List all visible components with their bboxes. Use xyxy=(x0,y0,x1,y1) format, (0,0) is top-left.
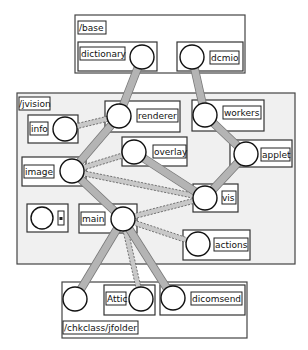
node-circle-actions[interactable] xyxy=(186,232,210,256)
node-label-workers: workers xyxy=(224,108,260,118)
node-label-dcmio: dcmio xyxy=(211,53,239,63)
node-label-applet: applet xyxy=(262,150,291,160)
node-circle-main[interactable] xyxy=(111,207,135,231)
node-circle-renderer[interactable] xyxy=(107,104,131,128)
node-label-main: main xyxy=(82,214,105,224)
node-circle-attic[interactable] xyxy=(129,287,153,311)
node-circle-image[interactable] xyxy=(60,159,84,183)
node-label-image: image xyxy=(25,167,53,177)
node-label-dicomsend: dicomsend xyxy=(192,294,241,304)
node-circle-vis[interactable] xyxy=(193,186,217,210)
node-label-attic: Attic xyxy=(107,294,128,304)
package-label-jvision: /jvision xyxy=(19,99,51,109)
package-label-base: /base xyxy=(79,23,104,33)
node-circle-overlay[interactable] xyxy=(122,140,146,164)
node-circle-dcmio[interactable] xyxy=(180,45,204,69)
dependency-diagram: /base dictionary dcmio /jvision info ren… xyxy=(0,0,308,350)
node-circle-unnamed[interactable] xyxy=(31,207,53,229)
node-circle-info[interactable] xyxy=(53,117,77,141)
node-label-info: info xyxy=(31,124,48,134)
package-label-chkclass: /chkclass/jfolder xyxy=(64,323,137,333)
node-label-vis: vis xyxy=(222,193,235,203)
node-circle-applet[interactable] xyxy=(234,142,258,166)
node-circle-dictionary[interactable] xyxy=(130,45,154,69)
node-label-dictionary: dictionary xyxy=(81,49,127,59)
node-label-actions: actions xyxy=(215,240,248,250)
node-circle-jfolder-root[interactable] xyxy=(63,287,87,311)
node-circle-dicomsend[interactable] xyxy=(161,286,185,310)
node-circle-workers[interactable] xyxy=(193,103,217,127)
unnamed-indicator-icon xyxy=(60,217,63,220)
node-label-overlay: overlay xyxy=(154,147,188,157)
node-label-renderer: renderer xyxy=(138,111,177,121)
